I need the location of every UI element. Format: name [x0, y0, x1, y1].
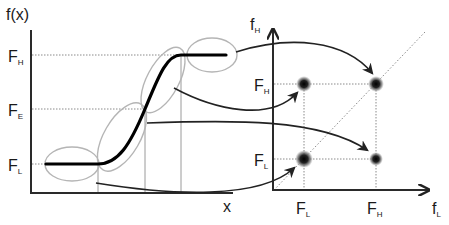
diagonal-line [274, 32, 425, 190]
arrow-low-to-fl-fl [96, 168, 294, 192]
cluster-fl-fh [296, 76, 312, 92]
fh-label: FH [8, 48, 24, 67]
y-tick-fh: FH [254, 77, 270, 96]
arrow-upper-rise-to-fl-fh [174, 88, 297, 110]
y-tick-fl: FL [254, 152, 269, 171]
mapping-arrows [96, 42, 372, 192]
y-axis-label: f(x) [6, 6, 29, 23]
cluster-fl-fl [295, 150, 313, 168]
x-tick-fh: FH [367, 200, 383, 219]
right-plot: fH fL FH FL FL FH [250, 16, 441, 219]
sigmoid-to-scatter-diagram: f(x) x FH FE FL fH fL FH FL FL FH [0, 0, 449, 225]
x-axis-label: x [223, 198, 231, 215]
left-plot: f(x) x FH FE FL [6, 6, 237, 215]
cluster-fh-fl [369, 152, 383, 166]
cluster-fh-fh [368, 76, 384, 92]
rising-upper-ellipse [132, 41, 194, 120]
arrow-high-to-fh-fh [236, 42, 372, 73]
fl-label: FL [8, 157, 23, 176]
x-tick-fl: FL [296, 200, 311, 219]
fl-axis-label: fL [432, 200, 441, 219]
fh-axis-label: fH [250, 16, 260, 35]
arrow-lower-rise-to-fh-fl [147, 121, 367, 150]
fe-label: FE [8, 102, 23, 121]
